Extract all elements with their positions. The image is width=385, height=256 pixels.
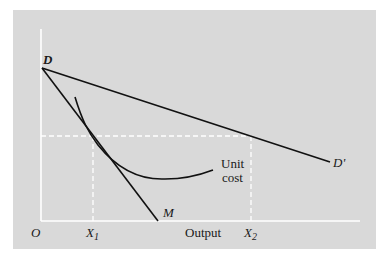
label-x2: X2 [243,225,257,242]
label-x1: X1 [85,225,99,242]
line-d-dprime [42,68,330,162]
label-output: Output [185,225,222,240]
label-d-prime: D' [332,155,345,170]
label-x2-sub: 2 [252,231,257,242]
cost-diagram: D D' M Unit cost O X1 Output X2 [0,0,385,256]
label-m: M [162,205,175,220]
label-unit: Unit [221,156,245,171]
label-cost: cost [222,170,243,185]
label-origin: O [31,225,41,240]
label-x1-sub: 1 [94,231,99,242]
line-d-m [42,68,158,221]
label-d: D [42,52,53,67]
